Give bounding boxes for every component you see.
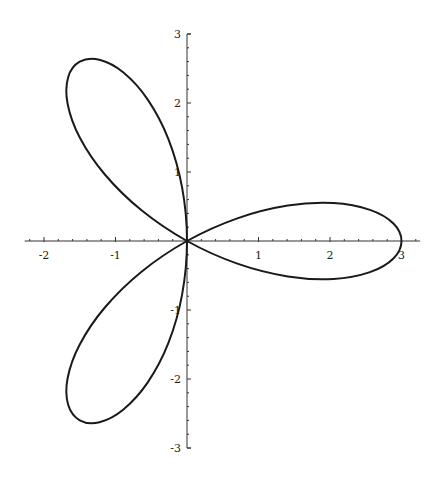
x-tick-label: -1 xyxy=(110,249,121,262)
x-tick-label: -2 xyxy=(39,249,50,262)
y-tick-label: 2 xyxy=(174,97,181,110)
x-tick-label: 1 xyxy=(255,249,262,262)
x-tick-labels: -2-1123 xyxy=(39,249,405,262)
y-tick-label: 3 xyxy=(174,28,181,41)
y-tick-label: -2 xyxy=(170,373,181,386)
rose-curve-plot: -2-1123 -3-2-1123 xyxy=(0,0,432,477)
y-tick-label: -3 xyxy=(170,442,181,455)
x-tick-label: 2 xyxy=(327,249,334,262)
